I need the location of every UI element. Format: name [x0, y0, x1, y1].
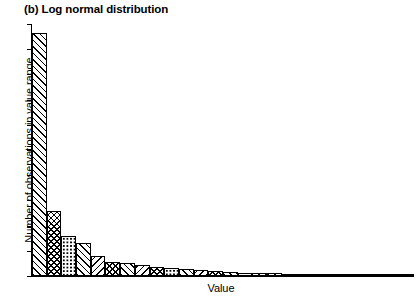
bar — [370, 274, 385, 276]
y-axis-tick — [27, 49, 31, 50]
bar — [194, 270, 209, 276]
bar — [311, 274, 326, 276]
bar — [76, 243, 91, 276]
bar — [208, 271, 223, 276]
y-axis-tick — [27, 251, 31, 252]
bar — [61, 236, 76, 276]
plot-area — [31, 24, 414, 277]
bar — [399, 274, 414, 276]
y-axis-tick — [27, 74, 31, 75]
y-axis-tick — [27, 226, 31, 227]
y-axis-tick — [27, 175, 31, 176]
y-axis-tick — [27, 276, 31, 277]
y-axis-tick — [27, 150, 31, 151]
bar — [32, 33, 47, 276]
y-axis-tick — [27, 24, 31, 25]
bar — [326, 274, 341, 276]
bar — [47, 211, 62, 276]
bar — [120, 263, 135, 276]
bar — [223, 272, 238, 276]
bar — [238, 273, 253, 277]
x-axis-label: Value — [208, 282, 235, 294]
bar-series — [32, 24, 414, 276]
bar — [91, 256, 106, 276]
bar — [296, 274, 311, 276]
bar — [164, 268, 179, 276]
y-axis-tick — [27, 200, 31, 201]
figure-log-normal-distribution: (b) Log normal distribution Number of ob… — [0, 0, 416, 299]
bar — [150, 267, 165, 276]
bar — [267, 273, 282, 276]
bar — [105, 262, 120, 276]
bar — [252, 273, 267, 276]
bar — [385, 274, 400, 276]
bar — [135, 265, 150, 276]
bar — [282, 274, 297, 277]
y-axis-tick — [27, 125, 31, 126]
bar — [179, 269, 194, 276]
bar — [341, 274, 356, 276]
y-axis-tick — [27, 100, 31, 101]
chart-title: (b) Log normal distribution — [24, 2, 168, 16]
bar — [355, 274, 370, 276]
x-axis-spine — [31, 276, 414, 277]
x-axis-label-wrapper: Value — [0, 282, 416, 294]
